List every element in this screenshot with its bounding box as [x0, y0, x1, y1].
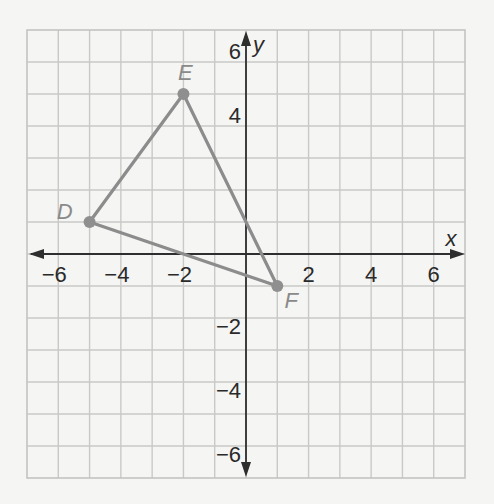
x-axis-label: x — [444, 226, 457, 251]
x-tick-label: 2 — [302, 262, 314, 287]
x-tick-label: 4 — [365, 262, 377, 287]
point-label-d: D — [57, 199, 73, 224]
point-d — [84, 216, 96, 228]
point-e — [177, 88, 189, 100]
x-axis-arrow-left-icon — [29, 249, 44, 259]
y-tick-label: 6 — [229, 39, 241, 64]
coordinate-plane: xy −6−4−224664−2−4−6 DEF — [0, 0, 494, 504]
point-f — [271, 280, 283, 292]
x-tick-label: −6 — [42, 262, 67, 287]
y-tick-label: −4 — [216, 378, 241, 403]
x-tick-label: 6 — [428, 262, 440, 287]
y-tick-label: 4 — [229, 103, 241, 128]
point-label-f: F — [285, 288, 300, 313]
y-tick-label: −6 — [216, 442, 241, 467]
tick-labels: −6−4−224664−2−4−6 — [42, 39, 440, 467]
x-tick-label: −2 — [167, 262, 192, 287]
axes: xy — [29, 31, 465, 477]
y-axis-label: y — [251, 32, 266, 57]
y-axis-arrow-down-icon — [241, 462, 251, 477]
point-label-e: E — [178, 60, 193, 85]
y-axis-arrow-up-icon — [241, 31, 251, 46]
y-tick-label: −2 — [216, 314, 241, 339]
x-tick-label: −4 — [104, 262, 129, 287]
